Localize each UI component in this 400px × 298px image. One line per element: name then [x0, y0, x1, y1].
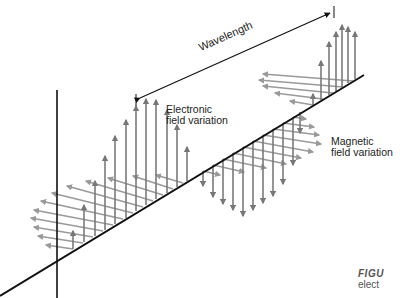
- electric-field-label-line2: field variation: [166, 115, 228, 126]
- magnetic-field-vectors: [31, 74, 353, 249]
- magnetic-field-label-line2: field variation: [331, 147, 393, 158]
- figure-caption: FIGU elect: [358, 268, 384, 290]
- wavelength-indicator: [136, 6, 334, 106]
- electric-field-label: Electronic field variation: [166, 104, 228, 126]
- figure-caption-line1: elect: [358, 279, 384, 290]
- magnetic-field-label: Magnetic field variation: [331, 136, 393, 158]
- figure-caption-title: FIGU: [358, 268, 384, 279]
- electric-field-vectors: [73, 25, 355, 249]
